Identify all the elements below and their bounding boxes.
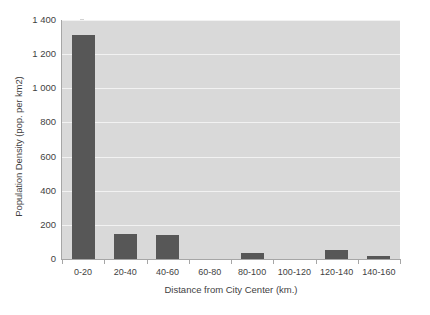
x-axis-tick-mark xyxy=(189,260,190,264)
plot-area xyxy=(62,20,400,259)
y-axis-tick-label: 600 xyxy=(22,152,56,162)
x-axis-tick-label: 20-40 xyxy=(104,265,146,279)
x-axis-tick-mark xyxy=(273,260,274,264)
x-axis-tick-mark xyxy=(147,260,148,264)
x-axis-tick-label: 140-160 xyxy=(358,265,400,279)
x-axis-tick-mark xyxy=(231,260,232,264)
x-axis-tick-label: 100-120 xyxy=(273,265,315,279)
y-axis-tick-label: 0 xyxy=(22,254,56,264)
bar-slot xyxy=(358,20,400,259)
x-axis-tick-mark xyxy=(400,260,401,264)
bar[interactable] xyxy=(156,235,179,259)
y-axis-tick-label: 200 xyxy=(22,220,56,230)
bar-slot xyxy=(231,20,273,259)
y-axis-tick-label: 400 xyxy=(22,186,56,196)
x-axis-tick-label: 80-100 xyxy=(231,265,273,279)
bar[interactable] xyxy=(114,234,137,259)
bar[interactable] xyxy=(72,35,95,259)
bar-slot xyxy=(316,20,358,259)
x-axis-tick-label: 60-80 xyxy=(189,265,231,279)
bars-group xyxy=(62,20,400,259)
bar-slot xyxy=(189,20,231,259)
x-axis-tick-label: 0-20 xyxy=(62,265,104,279)
x-axis-tick-label: 120-140 xyxy=(316,265,358,279)
x-axis-tick-marks xyxy=(62,260,400,264)
x-axis-tick-mark xyxy=(316,260,317,264)
bar[interactable] xyxy=(325,250,348,259)
x-axis-tick-mark xyxy=(62,260,63,264)
y-axis-tick-label: 1 400 xyxy=(22,15,56,25)
x-axis-title: Distance from City Center (km.) xyxy=(62,284,400,296)
x-axis-tick-label: 40-60 xyxy=(147,265,189,279)
bar-slot xyxy=(104,20,146,259)
y-axis-tick-label: 1 200 xyxy=(22,49,56,59)
x-axis-tick-mark xyxy=(104,260,105,264)
y-axis-tick-label: 1 000 xyxy=(22,83,56,93)
y-axis-tick-labels: 02004006008001 0001 2001 400 xyxy=(22,20,56,259)
x-axis-tick-labels: 0-2020-4040-6060-8080-100100-120120-1401… xyxy=(62,265,400,279)
bar-slot xyxy=(62,20,104,259)
bar-slot xyxy=(273,20,315,259)
y-axis-tick-label: 800 xyxy=(22,117,56,127)
x-axis-tick-mark xyxy=(358,260,359,264)
bar-slot xyxy=(147,20,189,259)
bar-chart: Population Density (pop. per km2) 020040… xyxy=(0,0,430,315)
